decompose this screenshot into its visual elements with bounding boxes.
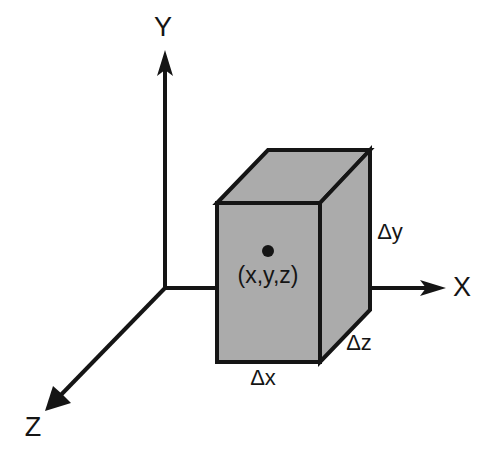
z-axis: Z [25, 288, 165, 442]
center-point-label: (x,y,z) [238, 262, 299, 288]
delta-z-label: Δz [346, 330, 372, 355]
delta-x-label: Δx [250, 365, 276, 390]
figure-root: Y X Z (x,y [0, 0, 492, 464]
z-axis-line [55, 288, 165, 401]
delta-y-label: Δy [377, 219, 403, 244]
y-axis: Y [154, 12, 173, 288]
x-axis-label: X [453, 272, 471, 302]
center-point-dot-icon [262, 245, 274, 257]
coordinate-system-diagram: Y X Z (x,y [0, 0, 492, 464]
y-axis-label: Y [154, 12, 172, 42]
z-axis-label: Z [25, 412, 42, 442]
